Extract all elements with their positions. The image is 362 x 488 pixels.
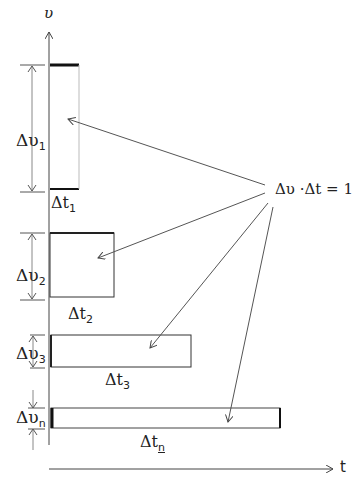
diagram-graphics [0,0,362,488]
equation: Δυ ·Δt = 1 [275,180,353,198]
delta-v1-label: Δυ1 [16,130,46,153]
delta-t1-label: Δt1 [51,193,76,215]
y-axis-label: υ [44,4,53,22]
delta-vn-label: Δυn [16,407,46,430]
delta-t2-label: Δt2 [68,304,93,326]
delta-t3-label: Δt3 [105,370,130,392]
delta-v3-label: Δυ3 [16,343,46,366]
delta-v2-label: Δυ2 [16,265,46,288]
x-axis-label: t [340,458,346,476]
diagram: υ t Δυ ·Δt = 1 Δυ1 Δt1 Δυ2 Δt2 Δυ3 Δt3 Δ… [0,0,362,488]
delta-tn-label: Δtn [140,432,165,454]
